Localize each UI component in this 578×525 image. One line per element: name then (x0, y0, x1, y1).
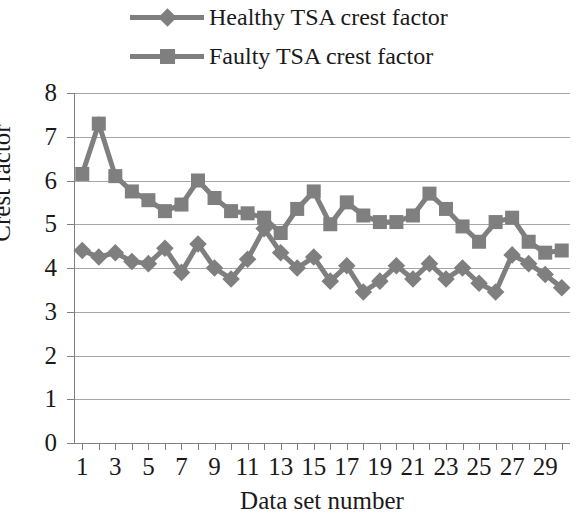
x-tick-5 (148, 443, 149, 450)
x-tick-13 (281, 443, 282, 450)
x-axis-title: Data set number (74, 487, 570, 515)
x-tick-label-19: 19 (363, 453, 397, 481)
x-tick-11 (248, 443, 249, 450)
x-tick-label-29: 29 (528, 453, 562, 481)
y-tick-5 (67, 224, 74, 225)
legend-entry-healthy: Healthy TSA crest factor (130, 2, 448, 32)
legend-label-healthy: Healthy TSA crest factor (209, 4, 448, 30)
gridline-y-4 (74, 268, 570, 269)
y-tick-label-3: 3 (27, 299, 57, 324)
y-tick-label-4: 4 (27, 255, 57, 280)
y-tick-label-8: 8 (27, 80, 57, 105)
x-tick-23 (446, 443, 447, 450)
x-tick-label-9: 9 (198, 453, 232, 481)
x-tick-1 (82, 443, 83, 450)
y-tick-6 (67, 181, 74, 182)
gridline-y-3 (74, 312, 570, 313)
x-tick-label-25: 25 (462, 453, 496, 481)
x-tick-label-27: 27 (495, 453, 529, 481)
y-tick-label-7: 7 (27, 124, 57, 149)
x-tick-19 (380, 443, 381, 450)
crest-factor-chart: Healthy TSA crest factor Faulty TSA cres… (0, 0, 578, 525)
x-tick-27 (512, 443, 513, 450)
x-tick-16 (330, 443, 331, 450)
legend-square-glyph (160, 49, 175, 64)
x-tick-12 (264, 443, 265, 450)
x-tick-8 (198, 443, 199, 450)
y-tick-label-1: 1 (27, 386, 57, 411)
x-tick-9 (215, 443, 216, 450)
diamond-marker-icon (130, 8, 204, 26)
square-marker-icon (130, 47, 204, 65)
y-tick-label-5: 5 (27, 211, 57, 236)
x-tick-label-11: 11 (231, 453, 265, 481)
x-tick-label-17: 17 (330, 453, 364, 481)
x-tick-3 (115, 443, 116, 450)
x-tick-15 (314, 443, 315, 450)
legend-entry-faulty: Faulty TSA crest factor (130, 41, 433, 71)
x-tick-22 (429, 443, 430, 450)
y-tick-1 (67, 399, 74, 400)
legend-diamond-glyph (158, 8, 176, 26)
x-tick-label-21: 21 (396, 453, 430, 481)
y-tick-label-0: 0 (27, 430, 57, 455)
x-tick-24 (463, 443, 464, 450)
y-tick-3 (67, 312, 74, 313)
x-tick-label-23: 23 (429, 453, 463, 481)
x-tick-label-7: 7 (164, 453, 198, 481)
x-tick-6 (165, 443, 166, 450)
legend-label-faulty: Faulty TSA crest factor (209, 43, 433, 69)
gridline-y-8 (74, 93, 570, 94)
gridline-y-7 (74, 137, 570, 138)
x-tick-label-3: 3 (98, 453, 132, 481)
x-tick-25 (479, 443, 480, 450)
y-tick-label-2: 2 (27, 343, 57, 368)
x-tick-7 (181, 443, 182, 450)
x-tick-label-15: 15 (297, 453, 331, 481)
y-tick-8 (67, 93, 74, 94)
gridline-y-1 (74, 399, 570, 400)
plot-area (74, 93, 570, 443)
y-axis-line (74, 93, 75, 444)
x-tick-17 (347, 443, 348, 450)
y-tick-4 (67, 268, 74, 269)
x-tick-29 (545, 443, 546, 450)
x-tick-14 (297, 443, 298, 450)
x-tick-30 (562, 443, 563, 450)
x-tick-28 (529, 443, 530, 450)
gridline-y-2 (74, 356, 570, 357)
gridline-y-5 (74, 224, 570, 225)
x-tick-4 (132, 443, 133, 450)
y-tick-label-6: 6 (27, 168, 57, 193)
x-tick-2 (99, 443, 100, 450)
x-tick-10 (231, 443, 232, 450)
x-tick-label-5: 5 (131, 453, 165, 481)
y-axis-title: Crest factor (0, 83, 15, 283)
x-tick-label-1: 1 (65, 453, 99, 481)
y-tick-7 (67, 137, 74, 138)
x-tick-18 (363, 443, 364, 450)
x-tick-label-13: 13 (264, 453, 298, 481)
x-tick-26 (496, 443, 497, 450)
gridline-y-6 (74, 181, 570, 182)
x-tick-20 (396, 443, 397, 450)
y-tick-2 (67, 356, 74, 357)
y-tick-0 (67, 443, 74, 444)
x-tick-21 (413, 443, 414, 450)
chart-legend: Healthy TSA crest factor Faulty TSA cres… (0, 0, 578, 78)
